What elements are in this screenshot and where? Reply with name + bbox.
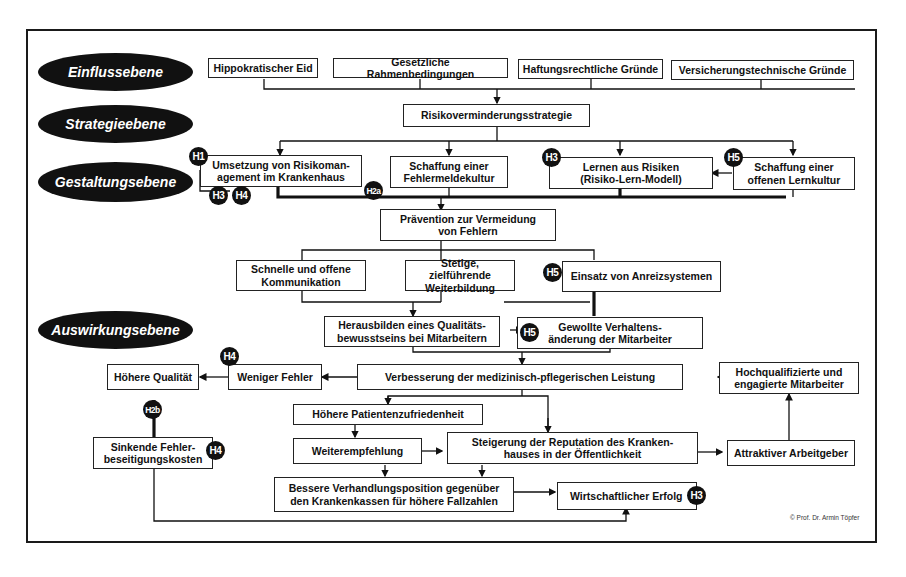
box-prevention: Prävention zur Vermeidung von Fehlern [380,209,556,241]
copyright-note: © Prof. Dr. Armin Töpfer [790,514,859,521]
box-liability-reasons: Haftungsrechtliche Gründe [518,59,663,79]
box-attractive-employer: Attraktiver Arbeitgeber [727,440,855,466]
box-risk-management: Umsetzung von Risikoman- agement im Kran… [200,155,362,187]
box-quality-awareness: Herausbilden eines Qualitäts- bewusstsei… [324,316,500,347]
badge-h5: H5 [520,323,539,342]
box-incentive-systems: Einsatz von Anreizsystemen [562,261,721,292]
box-recommendation: Weiterempfehlung [293,438,422,464]
level-design: Gestaltungsebene [38,162,193,202]
box-behavior-change: Gewollte Verhaltens- änderung der Mitarb… [517,317,703,349]
box-communication: Schnelle und offene Kommunikation [236,260,366,291]
badge-h3: H3 [687,486,706,505]
box-open-learning-culture: Schaffung einer offenen Lernkultur [733,157,855,190]
box-negotiation: Bessere Verhandlungsposition gegenüber d… [274,477,514,512]
level-label: Einflussebene [68,64,163,80]
box-economic-success: Wirtschaftlicher Erfolg [557,482,697,510]
box-hippocratic-oath: Hippokratischer Eid [208,58,318,78]
box-legal-framework: Gesetzliche Rahmenbedingungen [333,58,508,78]
level-effects: Auswirkungsebene [38,311,193,349]
level-strategy: Strategieebene [38,105,193,143]
level-label: Auswirkungsebene [51,322,179,338]
box-insurance-reasons: Versicherungstechnische Gründe [671,60,854,80]
level-influence: Einflussebene [38,53,193,91]
box-higher-quality: Höhere Qualität [107,364,199,390]
badge-h4: H4 [206,441,225,460]
badge-h2a: H2a [364,181,383,200]
box-lower-costs: Sinkende Fehler- beseitigungskosten [93,437,213,469]
level-label: Gestaltungsebene [55,174,176,190]
box-risk-reduction-strategy: Risikoverminderungsstrategie [403,104,590,127]
badge-h3: H3 [542,148,561,167]
badge-h4: H4 [220,347,239,366]
box-learning-from-risks: Lernen aus Risiken (Risiko-Lern-Modell) [549,157,713,189]
badge-h5: H5 [724,148,743,167]
box-error-reporting-culture: Schaffung einer Fehlermeldekultur [390,156,508,188]
box-patient-satisfaction: Höhere Patientenzufriedenheit [293,404,483,425]
box-fewer-errors: Weniger Fehler [228,364,322,390]
level-label: Strategieebene [65,116,165,132]
badge-h5: H5 [543,263,562,282]
box-training: Stetige, zielführende Weiterbildung [405,260,515,291]
box-improvement: Verbesserung der medizinisch-pflegerisch… [357,364,683,390]
box-reputation: Steigerung der Reputation des Kranken- h… [447,432,698,464]
badge-h4: H4 [232,186,251,205]
box-qualified-staff: Hochqualifizierte und engagierte Mitarbe… [719,362,859,394]
badge-h1: H1 [189,147,208,166]
badge-h2b: H2b [143,400,162,419]
badge-h3: H3 [209,186,228,205]
